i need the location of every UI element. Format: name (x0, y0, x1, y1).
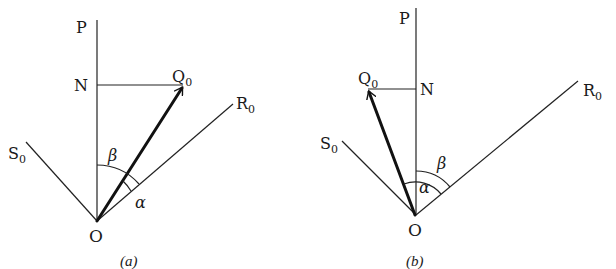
label-s: S0 (8, 144, 26, 166)
label-o: O (89, 226, 103, 246)
label-r: R0 (583, 81, 602, 103)
figure-canvas: P N Q0 R0 S0 O β α (a) P N Q0 R0 S0 O β … (0, 0, 616, 269)
label-beta: β (107, 146, 117, 165)
line-os0 (342, 141, 416, 215)
line-os0 (26, 142, 97, 221)
label-q: Q0 (358, 69, 378, 91)
caption-a: (a) (120, 253, 138, 269)
panel-a: P N Q0 R0 S0 O β α (a) (8, 18, 255, 269)
label-p: P (399, 9, 410, 28)
label-p: P (76, 18, 87, 37)
alpha-arc (123, 181, 131, 191)
label-o: O (408, 220, 422, 240)
label-n: N (420, 80, 434, 99)
caption-b: (b) (406, 253, 424, 269)
label-alpha: α (419, 178, 430, 197)
label-beta: β (436, 154, 446, 173)
vector-oq0-arrow (369, 92, 415, 215)
line-or0 (416, 81, 578, 215)
label-r: R0 (236, 94, 255, 116)
label-q: Q0 (172, 67, 192, 89)
panel-b: P N Q0 R0 S0 O β α (b) (320, 8, 602, 269)
line-or0 (97, 104, 233, 221)
label-s: S0 (320, 134, 338, 156)
label-alpha: α (135, 193, 146, 212)
label-n: N (74, 76, 88, 95)
